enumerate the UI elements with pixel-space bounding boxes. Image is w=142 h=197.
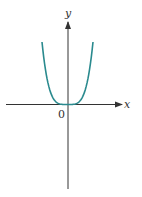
y-axis-label: y bbox=[64, 7, 72, 20]
origin-label: 0 bbox=[58, 108, 65, 121]
function-graph: x y 0 bbox=[0, 0, 142, 197]
x-axis-label: x bbox=[124, 98, 131, 111]
